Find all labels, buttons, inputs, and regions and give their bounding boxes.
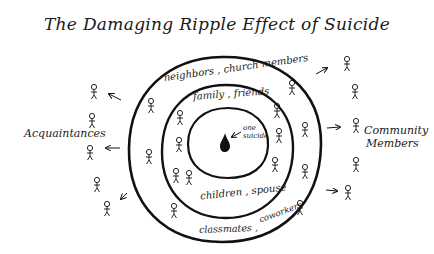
diagram: The Damaging Ripple Effect of Suicide bbox=[0, 0, 434, 254]
center-label-line2: suicide bbox=[243, 132, 268, 140]
community-label-line1: Community bbox=[364, 124, 428, 137]
center-label: one suicide bbox=[243, 124, 268, 140]
community-label-line2: Members bbox=[364, 137, 428, 150]
acquaintances-label: Acquaintances bbox=[24, 127, 106, 140]
center-label-line1: one bbox=[243, 124, 268, 132]
community-members-label: Community Members bbox=[364, 124, 428, 150]
drop-icon bbox=[220, 133, 230, 152]
community-members-figures bbox=[344, 56, 359, 200]
acquaintances-figures bbox=[87, 84, 110, 216]
outer-ring-bottom-label-left: classmates , bbox=[199, 222, 258, 235]
